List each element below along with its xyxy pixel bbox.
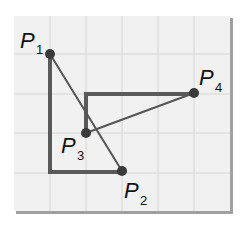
point-p4 xyxy=(189,88,199,98)
label-p1: P xyxy=(20,28,35,53)
label-p2: P xyxy=(124,178,139,203)
label-p1-subscript: 1 xyxy=(36,42,43,57)
point-p3 xyxy=(81,128,91,138)
label-p2-subscript: 2 xyxy=(140,193,147,208)
point-p1 xyxy=(45,49,55,59)
diagram-canvas: P 1 P 2 P 3 P 4 xyxy=(0,0,245,225)
label-p3: P xyxy=(61,133,76,158)
label-p4: P xyxy=(199,65,214,90)
label-p3-subscript: 3 xyxy=(77,148,84,163)
label-p4-subscript: 4 xyxy=(215,80,222,95)
point-p2 xyxy=(117,166,127,176)
